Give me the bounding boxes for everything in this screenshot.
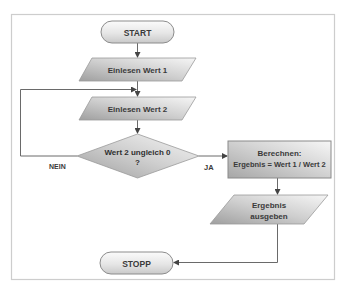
no-branch-label: NEIN (49, 163, 66, 170)
output-label-line1: Ergebnis (252, 201, 287, 210)
output-label-line2: ausgeben (250, 212, 287, 221)
start-label: START (124, 28, 153, 38)
process-node: Berechnen: Ergebnis = Wert 1 / Wert 2 (228, 141, 331, 178)
process-label-line2: Ergebnis = Wert 1 / Wert 2 (233, 160, 325, 169)
yes-branch-label: JA (204, 163, 214, 172)
stop-label: STOPP (122, 259, 151, 269)
input2-label: Einlesen Wert 2 (108, 105, 168, 114)
process-label-line1: Berechnen: (257, 149, 301, 158)
input1-label: Einlesen Wert 1 (108, 66, 168, 75)
decision-label-line2: ? (135, 158, 140, 167)
input2-node: Einlesen Wert 2 (79, 97, 196, 120)
decision-label-line1: Wert 2 ungleich 0 (104, 148, 171, 157)
stop-node: STOPP (100, 252, 173, 274)
input1-node: Einlesen Wert 1 (79, 58, 196, 81)
start-node: START (101, 21, 174, 43)
flowchart-canvas: START Einlesen Wert 1 Einlesen Wert 2 We… (0, 0, 347, 289)
